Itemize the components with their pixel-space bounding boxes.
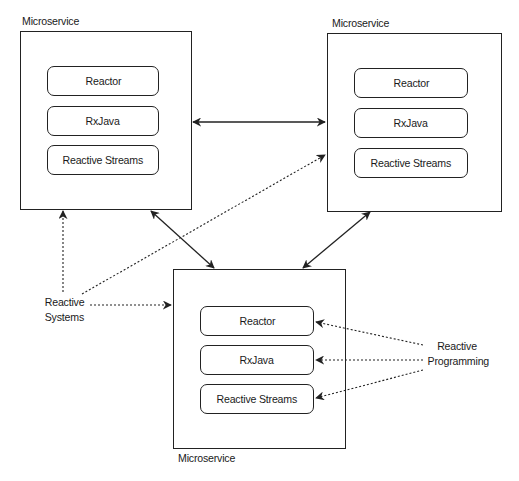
component-label: Reactive Streams <box>371 157 452 169</box>
component-label: RxJava <box>394 117 428 129</box>
component-reactive-streams: Reactive Streams <box>354 148 468 178</box>
component-label: RxJava <box>86 115 120 127</box>
component-label: Reactor <box>393 77 429 89</box>
reactive-architecture-diagram: Microservice Reactor RxJava Reactive Str… <box>0 0 519 481</box>
component-label: RxJava <box>240 354 274 366</box>
reactive-programming-label: Reactive Programming <box>425 339 489 369</box>
component-reactor: Reactor <box>47 66 159 96</box>
component-rxjava: RxJava <box>200 345 314 375</box>
component-label: Reactive Streams <box>63 154 144 166</box>
reactive-programming-line2: Programming <box>428 354 487 369</box>
component-reactor: Reactor <box>354 68 468 98</box>
connector-topleft-bottom <box>151 211 214 268</box>
component-label: Reactive Streams <box>217 393 298 405</box>
component-reactor: Reactor <box>200 306 314 336</box>
component-label: Reactor <box>85 75 121 87</box>
component-rxjava: RxJava <box>47 106 159 136</box>
reactive-systems-line2: Systems <box>45 310 85 325</box>
reactive-systems-label: Reactive Systems <box>43 295 86 325</box>
component-label: Reactor <box>239 315 275 327</box>
connector-topright-bottom <box>303 212 370 268</box>
component-reactive-streams: Reactive Streams <box>47 145 159 175</box>
microservice-top-right-label: Microservice <box>332 17 389 30</box>
reactive-systems-line1: Reactive <box>45 295 85 310</box>
microservice-top-left-label: Microservice <box>22 15 79 28</box>
reactive-programming-line1: Reactive <box>428 339 487 354</box>
component-rxjava: RxJava <box>354 108 468 138</box>
component-reactive-streams: Reactive Streams <box>200 384 314 414</box>
microservice-bottom-label: Microservice <box>178 452 235 465</box>
